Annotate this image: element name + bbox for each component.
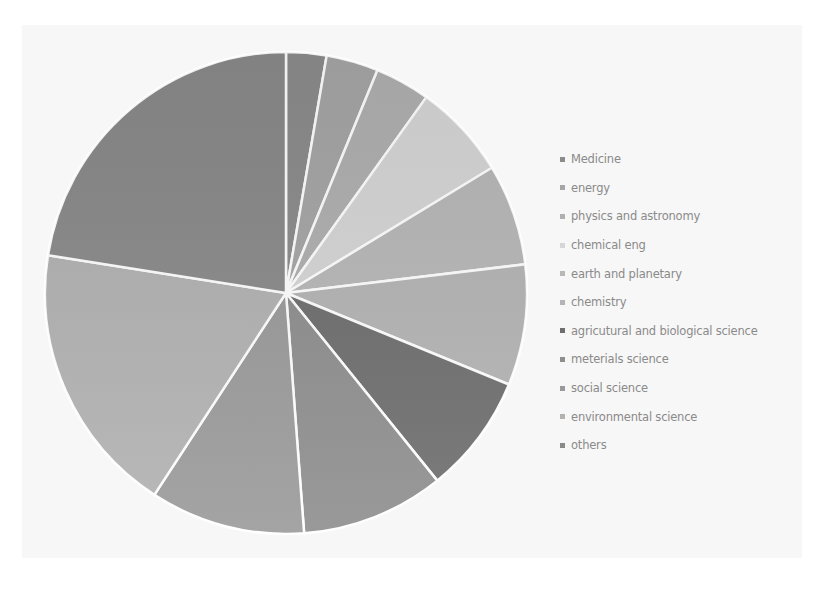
- legend-item: agricutural and biological science: [560, 317, 820, 346]
- legend-label: social science: [571, 381, 648, 395]
- legend-label: energy: [571, 181, 610, 195]
- legend-item: environmental science: [560, 402, 820, 431]
- legend-item: energy: [560, 174, 820, 203]
- legend-label: chemistry: [571, 295, 626, 309]
- legend-label: meterials science: [571, 352, 669, 366]
- legend-label: environmental science: [571, 410, 697, 424]
- legend-swatch-icon: [560, 357, 565, 362]
- legend-swatch-icon: [560, 328, 565, 333]
- legend-item: chemical eng: [560, 231, 820, 260]
- legend-item: chemistry: [560, 288, 820, 317]
- legend-item: meterials science: [560, 345, 820, 374]
- legend-swatch-icon: [560, 243, 565, 248]
- legend-label: Medicine: [571, 152, 621, 166]
- legend-swatch-icon: [560, 157, 565, 162]
- legend-label: earth and planetary: [571, 267, 682, 281]
- legend-swatch-icon: [560, 414, 565, 419]
- legend-swatch-icon: [560, 185, 565, 190]
- legend-swatch-icon: [560, 386, 565, 391]
- legend-label: chemical eng: [571, 238, 646, 252]
- legend-swatch-icon: [560, 300, 565, 305]
- legend-item: social science: [560, 374, 820, 403]
- legend: Medicine energy physics and astronomy ch…: [560, 145, 820, 460]
- legend-swatch-icon: [560, 443, 565, 448]
- legend-item: others: [560, 431, 820, 460]
- pie-slices: [45, 52, 527, 534]
- legend-item: earth and planetary: [560, 259, 820, 288]
- pie-shading: [45, 52, 527, 534]
- legend-label: others: [571, 438, 606, 452]
- legend-swatch-icon: [560, 214, 565, 219]
- legend-item: physics and astronomy: [560, 202, 820, 231]
- legend-label: agricutural and biological science: [571, 324, 758, 338]
- legend-item: Medicine: [560, 145, 820, 174]
- legend-swatch-icon: [560, 271, 565, 276]
- legend-label: physics and astronomy: [571, 209, 700, 223]
